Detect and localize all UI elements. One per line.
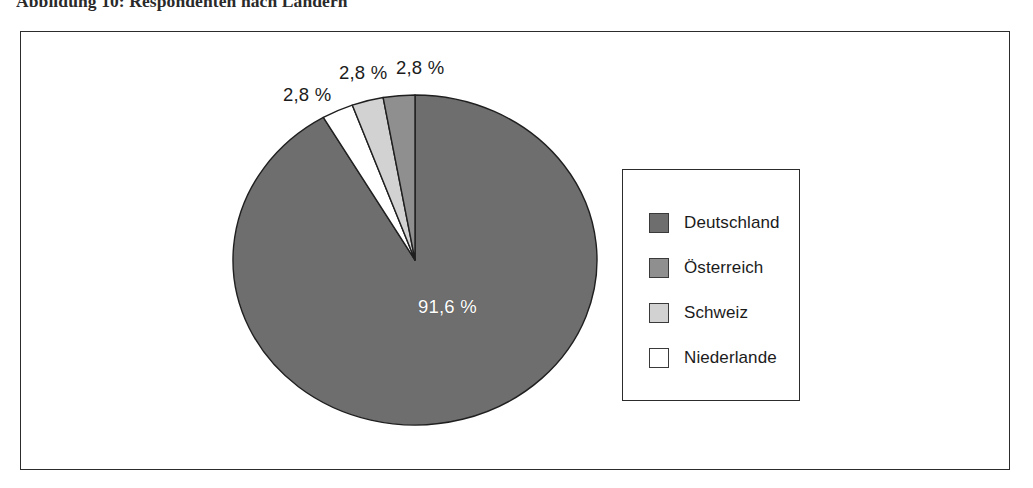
slice-label-deutschland: 91,6 % <box>418 296 477 318</box>
legend-swatch-icon <box>649 348 669 368</box>
legend-item: Schweiz <box>649 290 799 335</box>
legend-swatch-icon <box>649 258 669 278</box>
legend-item: Deutschland <box>649 200 799 245</box>
legend-item-label: Österreich <box>684 258 763 278</box>
legend: DeutschlandÖsterreichSchweizNiederlande <box>622 169 800 401</box>
legend-item-label: Niederlande <box>684 348 777 368</box>
slice-label-oesterreich: 2,8 % <box>283 84 331 106</box>
legend-item-label: Deutschland <box>684 213 780 233</box>
pie-chart-svg <box>0 0 1033 488</box>
legend-rows: DeutschlandÖsterreichSchweizNiederlande <box>649 200 799 380</box>
slice-label-schweiz: 2,8 % <box>339 62 387 84</box>
legend-item: Österreich <box>649 245 799 290</box>
slice-label-niederlande: 2,8 % <box>396 57 444 79</box>
pie-chart <box>0 0 1033 488</box>
figure-page: Abbildung 10: Respondenten nach Ländern … <box>0 0 1033 488</box>
legend-item: Niederlande <box>649 335 799 380</box>
legend-item-label: Schweiz <box>684 303 748 323</box>
legend-swatch-icon <box>649 213 669 233</box>
legend-swatch-icon <box>649 303 669 323</box>
